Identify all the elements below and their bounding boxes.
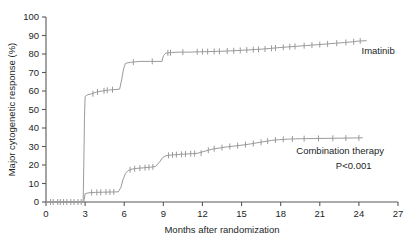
y-tick-label-100: 100: [23, 11, 39, 22]
curve-imatinib: [46, 41, 367, 202]
x-tick-label-3: 3: [82, 208, 87, 219]
y-axis-title: Major cytogenetic response (%): [6, 43, 17, 177]
chart-text-group: Months after randomizationMajor cytogene…: [6, 43, 395, 235]
y-tick-label-20: 20: [28, 159, 39, 170]
series-label-imatinib: Imatinib: [362, 45, 395, 56]
x-tick-label-24: 24: [354, 208, 365, 219]
y-tick-label-70: 70: [28, 67, 39, 78]
x-tick-label-15: 15: [236, 208, 247, 219]
x-axis-title: Months after randomization: [164, 224, 279, 235]
survival-chart: 01020304050607080901000369121518212427 M…: [0, 0, 414, 238]
x-tick-label-0: 0: [43, 208, 48, 219]
x-tick-label-21: 21: [314, 208, 325, 219]
figure-container: 01020304050607080901000369121518212427 M…: [0, 0, 414, 238]
annotation-p-value: P<0.001: [336, 160, 372, 171]
y-tick-label-60: 60: [28, 85, 39, 96]
y-tick-label-0: 0: [34, 196, 39, 207]
y-tick-label-80: 80: [28, 48, 39, 59]
y-tick-label-30: 30: [28, 141, 39, 152]
series-label-combination-therapy: Combination therapy: [296, 145, 384, 156]
x-tick-label-6: 6: [122, 208, 127, 219]
y-tick-label-50: 50: [28, 104, 39, 115]
x-tick-label-27: 27: [393, 208, 404, 219]
curves-group: [46, 38, 367, 205]
y-tick-label-40: 40: [28, 122, 39, 133]
y-tick-label-90: 90: [28, 30, 39, 41]
x-tick-label-18: 18: [275, 208, 286, 219]
x-tick-label-12: 12: [197, 208, 208, 219]
x-tick-label-9: 9: [161, 208, 166, 219]
y-tick-label-10: 10: [28, 178, 39, 189]
